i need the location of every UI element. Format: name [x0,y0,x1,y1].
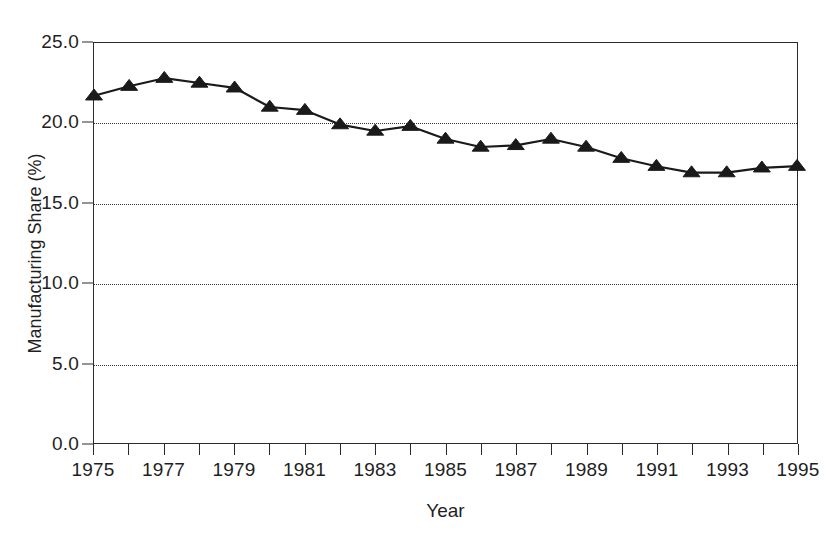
data-point-marker: 1988: 19 [542,132,559,143]
data-point-marker: 1980: 21 [261,100,278,111]
x-axis-title: Year [93,500,798,522]
x-tick-mark [128,444,129,455]
x-tick-mark [446,444,447,455]
x-tick-label: 1981 [283,459,326,481]
x-tick-mark [798,444,799,455]
x-tick-mark [551,444,552,455]
x-tick-mark [410,444,411,455]
x-tick-mark [763,444,764,455]
chart-title [0,2,837,16]
data-point-marker: 1995: 17.3 [789,159,806,170]
y-tick-mark [82,202,93,203]
x-tick-label: 1995 [776,459,819,481]
plot-area: 1975: 21.71976: 22.31977: 22.81978: 22.5… [93,42,798,444]
x-tick-label: 1975 [71,459,114,481]
x-tick-mark [234,444,235,455]
x-tick-label: 1989 [565,459,608,481]
x-tick-mark [657,444,658,455]
x-tick-mark [340,444,341,455]
y-tick-mark [82,42,93,43]
x-tick-mark [728,444,729,455]
y-tick-label: 5.0 [52,353,79,375]
x-tick-label: 1983 [353,459,396,481]
x-tick-mark [587,444,588,455]
x-tick-label: 1985 [424,459,467,481]
data-series: 1975: 21.71976: 22.31977: 22.81978: 22.5… [94,43,797,443]
y-tick-mark [82,283,93,284]
x-tick-mark [164,444,165,455]
x-tick-mark [622,444,623,455]
x-tick-mark [375,444,376,455]
y-tick-mark [82,444,93,445]
x-tick-mark [199,444,200,455]
x-tick-label: 1987 [494,459,537,481]
x-tick-mark [516,444,517,455]
x-tick-mark [481,444,482,455]
chart-figure: 0.05.010.015.020.025.0 Manufacturing Sha… [0,0,837,535]
x-axis-ticks [93,444,798,458]
series-line [94,78,797,172]
y-tick-mark [82,122,93,123]
y-tick-label: 15.0 [41,192,79,214]
y-tick-label: 10.0 [41,272,79,294]
x-tick-label: 1991 [635,459,678,481]
x-tick-label: 1993 [706,459,749,481]
data-point-marker: 1984: 19.8 [402,119,419,130]
x-axis-labels: 1975197719791981198319851987198919911993… [93,459,798,489]
y-axis-title: Manufacturing Share (%) [25,59,46,449]
y-tick-label: 20.0 [41,111,79,133]
data-point-marker: 1977: 22.8 [156,71,173,82]
x-tick-mark [93,444,94,455]
x-tick-mark [692,444,693,455]
y-axis: 0.05.010.015.020.025.0 [0,0,93,535]
x-tick-mark [269,444,270,455]
x-tick-label: 1977 [142,459,185,481]
x-tick-mark [305,444,306,455]
y-tick-label: 0.0 [52,433,79,455]
y-tick-mark [82,363,93,364]
y-tick-label: 25.0 [41,31,79,53]
x-tick-label: 1979 [212,459,255,481]
